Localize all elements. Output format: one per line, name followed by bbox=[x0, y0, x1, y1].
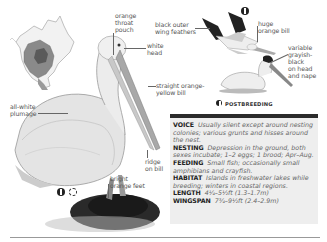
info-habitat: HABITAT Islands in freshwater lakes whil… bbox=[173, 174, 317, 189]
leader-line bbox=[195, 28, 210, 29]
leader-line bbox=[113, 33, 114, 55]
label-straight-bill: straight orange- yellow bill bbox=[156, 82, 204, 96]
postbreeding-symbol-icon bbox=[216, 100, 222, 106]
info-length: LENGTH 4¼–5½ft (1.3–1.7m) bbox=[173, 189, 317, 197]
leader-line bbox=[124, 48, 146, 49]
info-voice: VOICE Usually silent except around nesti… bbox=[173, 121, 317, 144]
bottom-divider bbox=[10, 237, 320, 238]
leader-line bbox=[148, 86, 156, 87]
pelican-postbreeding-illustration bbox=[215, 55, 295, 97]
info-text: VOICE Usually silent except around nesti… bbox=[173, 121, 317, 205]
label-white-head: white head bbox=[147, 42, 163, 56]
summer-sun-icon bbox=[69, 188, 77, 196]
info-nesting: NESTING Depression in the ground, both s… bbox=[173, 144, 317, 159]
info-header-bar bbox=[170, 114, 318, 118]
label-feet: bright orange feet bbox=[110, 175, 145, 189]
species-info-panel: VOICE Usually silent except around nesti… bbox=[170, 114, 318, 224]
label-ridge: ridge on bill bbox=[145, 158, 163, 172]
leader-line bbox=[257, 26, 258, 42]
leader-line bbox=[147, 150, 148, 158]
breeding-symbol-icon bbox=[241, 7, 249, 15]
info-wingspan: WINGSPAN 7¾–9½ft (2.4–2.9m) bbox=[173, 197, 317, 205]
pelican-breeding-illustration bbox=[0, 30, 175, 235]
label-plumage: all-white plumage bbox=[10, 103, 36, 117]
breeding-symbol-icon bbox=[57, 188, 65, 196]
postbreeding-label: POSTBREEDING bbox=[225, 101, 273, 107]
leader-line bbox=[38, 113, 68, 114]
leader-line bbox=[108, 184, 109, 198]
label-throat-pouch: orange throat pouch bbox=[115, 12, 136, 33]
info-feeding: FEEDING Small fish; occasionally small a… bbox=[173, 159, 317, 174]
label-wing-feathers: black outer wing feathers bbox=[155, 21, 196, 35]
label-variable-head: variable grayish- black on head and nape bbox=[288, 44, 316, 79]
label-huge-bill: huge orange bill bbox=[258, 20, 290, 34]
